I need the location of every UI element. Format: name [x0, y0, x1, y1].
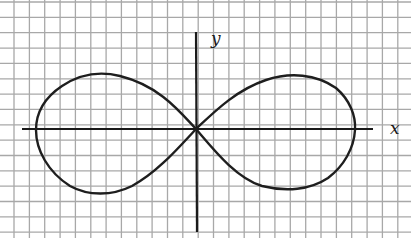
y-axis	[196, 32, 197, 232]
graph-paper-figure: y x	[0, 0, 411, 238]
figure-canvas: y x	[0, 0, 411, 238]
x-axis-label: x	[390, 118, 400, 138]
curve-right-lobe	[196, 75, 355, 189]
y-axis-label: y	[210, 28, 221, 48]
